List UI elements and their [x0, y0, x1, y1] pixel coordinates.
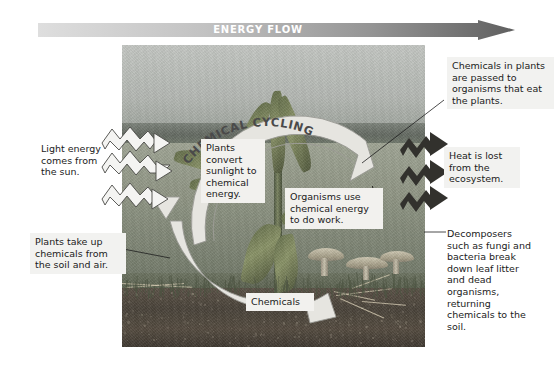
soil-particle — [174, 308, 175, 309]
soil-particle — [272, 311, 273, 312]
grass-blade — [150, 294, 151, 298]
soil-particle — [167, 327, 169, 329]
soil-particle — [369, 304, 371, 306]
soil-particle — [316, 317, 317, 318]
grass-blade — [353, 283, 354, 291]
soil-particle — [269, 339, 271, 341]
grass-blade — [162, 285, 164, 292]
soil-particle — [316, 300, 317, 301]
soil-particle — [344, 301, 345, 302]
soil-particle — [211, 308, 213, 310]
soil-particle — [212, 299, 214, 301]
soil-particle — [340, 300, 342, 302]
soil-particle — [294, 336, 296, 338]
callout-chemicals-passed-to-organisms: Chemicals in plants are passed to organi… — [447, 57, 554, 109]
soil-particle — [405, 327, 407, 329]
soil-particle — [150, 316, 151, 317]
soil-particle — [162, 303, 164, 305]
grass-blade — [130, 281, 131, 291]
soil-particle — [200, 324, 201, 325]
soil-particle — [387, 328, 388, 329]
soil-particle — [188, 327, 189, 328]
soil-particle — [330, 334, 333, 337]
soil-particle — [393, 318, 394, 319]
soil-particle — [233, 344, 234, 345]
soil-particle — [288, 312, 289, 313]
soil-particle — [125, 315, 127, 317]
soil-particle — [306, 337, 307, 338]
soil-particle — [155, 345, 156, 346]
soil-particle — [406, 315, 407, 316]
soil-particle — [171, 292, 173, 294]
soil-particle — [343, 292, 345, 294]
callout-organisms-use-energy: Organisms use chemical energy to do work… — [285, 188, 383, 229]
soil-particle — [213, 323, 215, 325]
mushroom-stem — [393, 259, 399, 274]
soil-particle — [379, 337, 380, 338]
soil-particle — [329, 294, 331, 296]
soil-particle — [420, 321, 421, 322]
callout-plants-take-up-chemicals: Plants take up chemicals from the soil a… — [30, 233, 126, 274]
soil-particle — [356, 302, 357, 303]
soil-particle — [342, 334, 344, 336]
callout-decomposers: Decomposers such as fungi and bacteria b… — [447, 228, 535, 332]
soil-particle — [222, 303, 223, 304]
soil-particle — [405, 321, 407, 323]
soil-particle — [414, 297, 416, 299]
soil-particle — [372, 314, 373, 315]
soil-particle — [231, 328, 232, 329]
soil-particle — [210, 344, 211, 345]
soil-particle — [319, 340, 320, 341]
soil-particle — [264, 319, 265, 320]
callout-heat-is-lost: Heat is lost from the ecosystem. — [444, 147, 520, 188]
soil-particle — [212, 336, 213, 337]
grass-blade — [325, 288, 326, 293]
soil-particle — [192, 319, 193, 320]
soil-particle — [260, 334, 262, 336]
soil-particle — [208, 333, 209, 334]
soil-particle — [207, 320, 208, 321]
soil-particle — [200, 303, 203, 306]
soil-particle — [372, 337, 374, 339]
soil-particle — [367, 336, 369, 338]
soil-particle — [411, 340, 413, 342]
soil-particle — [419, 338, 420, 339]
soil-particle — [248, 325, 250, 327]
soil-particle — [185, 297, 186, 298]
soil-particle — [397, 333, 398, 334]
soil-particle — [363, 291, 364, 292]
soil-particle — [281, 318, 282, 319]
soil-particle — [360, 342, 362, 344]
soil-particle — [273, 322, 274, 323]
soil-particle — [253, 312, 254, 313]
soil-particle — [399, 325, 401, 327]
soil-particle — [395, 309, 396, 310]
soil-particle — [391, 316, 393, 318]
soil-particle — [402, 345, 404, 347]
soil-particle — [168, 317, 169, 318]
soil-particle — [316, 336, 317, 337]
soil-particle — [345, 344, 346, 345]
grass-blade — [193, 287, 194, 291]
grass-blade — [424, 286, 425, 296]
grass-blade — [145, 280, 146, 293]
callout-light-energy: Light energy comes from the sun. — [41, 143, 107, 178]
soil-particle — [304, 317, 305, 318]
soil-particle — [187, 322, 188, 323]
soil-particle — [413, 303, 415, 305]
soil-particle — [396, 340, 397, 341]
soil-particle — [233, 319, 234, 320]
callout-plants-convert-sunlight: Plants convert sunlight to chemical ener… — [201, 139, 265, 203]
soil-particle — [124, 332, 126, 334]
soil-particle — [184, 309, 185, 310]
soil-particle — [184, 303, 185, 304]
soil-particle — [153, 339, 155, 341]
soil-particle — [158, 318, 159, 319]
grass-blade — [204, 288, 205, 292]
energy-flow-chemical-cycling-diagram: ENERGY FLOW — [0, 0, 555, 372]
callout-chemicals: Chemicals — [246, 293, 314, 311]
soil-particle — [361, 308, 362, 309]
energy-flow-arrow: ENERGY FLOW — [38, 20, 515, 40]
soil-particle — [247, 345, 249, 347]
soil-particle — [161, 317, 163, 319]
